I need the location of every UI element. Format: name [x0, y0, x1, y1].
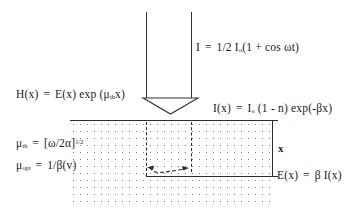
dashed-boundary-right [191, 122, 192, 172]
eq-incident-rhs-suffix: (1 + cos ωt) [242, 41, 299, 53]
eq-hx-rhs-suffix: x) [115, 88, 125, 100]
eq-incident-rhs-prefix: 1/2 I [216, 41, 238, 53]
equation-beer-lambert: I(x) = Io (1 - n) exp(-βx) [213, 102, 332, 115]
stipple-texture [70, 121, 273, 205]
equation-thermal-wave: H(x) = E(x) exp (μthx) [16, 88, 125, 101]
eq-ix-operator: = [236, 102, 243, 114]
beam-shaft-right-edge [191, 12, 192, 98]
equation-incident-intensity: I = 1/2 Io(1 + cos ωt) [196, 41, 299, 54]
equation-thermal-diffusion-length: μth = [ω/2α]1/2 [16, 137, 84, 150]
eq-ix-rhs-suffix: (1 - n) exp(-βx) [255, 102, 333, 114]
dashed-boundary-left [146, 122, 147, 176]
eq-ex-lhs: E(x) [277, 169, 298, 181]
depth-label: x [278, 142, 284, 154]
eq-incident-operator: = [205, 41, 212, 53]
eq-muth-rhs-prefix: [ω/2α] [44, 137, 75, 149]
eq-muth-superscript: 1/2 [75, 138, 83, 145]
photothermal-diagram: x I = 1/2 Io(1 + cos ωt) H(x) = E(x) exp… [0, 0, 360, 211]
sample-surface-line [70, 120, 273, 121]
eq-hx-rhs-prefix: E(x) exp (μ [55, 88, 110, 100]
eq-ex-operator: = [303, 169, 310, 181]
eq-ex-rhs-prefix: β I(x) [315, 169, 342, 181]
eq-muopt-lhs-subscript: opt [22, 164, 30, 171]
equation-optical-absorption-length: μopt = 1/β(v) [16, 159, 77, 172]
eq-muth-operator: = [32, 137, 39, 149]
eq-ix-lhs: I(x) [213, 102, 231, 114]
equation-energy-deposition: E(x) = β I(x) [277, 169, 342, 182]
sample-medium [70, 121, 273, 205]
eq-hx-lhs: H(x) [16, 88, 39, 100]
depth-tick-top [266, 120, 278, 121]
eq-muopt-rhs-prefix: 1/β(v) [47, 159, 76, 171]
beam-shaft-left-edge [146, 12, 147, 98]
depth-base-line [146, 176, 273, 177]
beam-arrowhead [143, 98, 198, 114]
depth-measure-line [272, 121, 273, 177]
